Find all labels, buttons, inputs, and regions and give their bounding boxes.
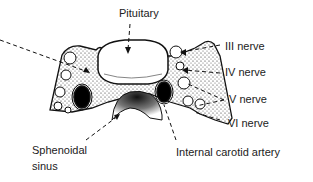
right-carotid: [157, 82, 171, 102]
label-nerve-6: VI nerve: [228, 117, 269, 130]
label-nerve-5: V nerve: [229, 93, 267, 106]
label-nerve-4: IV nerve: [225, 66, 266, 79]
pituitary-gland: [98, 40, 168, 84]
label-sphenoidal-2: sinus: [32, 160, 58, 173]
left-carotid: [74, 86, 90, 108]
label-sphenoidal-1: Sphenoidal: [32, 144, 87, 157]
label-carotid: Internal carotid artery: [176, 146, 280, 159]
label-nerve-3: III nerve: [225, 40, 265, 53]
label-pituitary: Pituitary: [119, 7, 159, 20]
diagram-canvas: Pituitary III nerve IV nerve V nerve VI …: [0, 0, 313, 182]
